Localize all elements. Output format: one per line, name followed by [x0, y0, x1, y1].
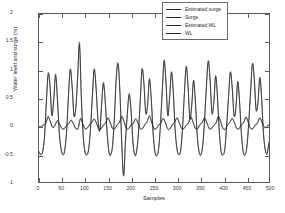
x-tick-label: 0 — [37, 186, 40, 191]
x-tick-mark — [155, 178, 156, 182]
legend-label: Surge — [185, 15, 198, 20]
series-line — [39, 44, 269, 175]
x-tick-mark — [109, 178, 110, 182]
x-tick-label: 50 — [58, 186, 64, 191]
y-tick-mark — [265, 99, 269, 100]
x-tick-mark — [62, 14, 63, 18]
figure-container: -1-0.500.511.52 050100150200250300350400… — [0, 0, 285, 213]
x-tick-mark — [225, 178, 226, 182]
x-tick-label: 300 — [173, 186, 182, 191]
x-tick-mark — [201, 178, 202, 182]
y-tick-mark — [265, 71, 269, 72]
plot-area — [38, 13, 270, 183]
legend-label: Estimated surge — [185, 7, 221, 12]
legend-item[interactable]: Surge — [165, 13, 225, 21]
x-tick-label: 250 — [150, 186, 159, 191]
y-tick-mark — [265, 14, 269, 15]
legend-label: Estimated WL — [185, 23, 216, 28]
y-tick-mark — [265, 42, 269, 43]
y-tick-label: 0 — [10, 123, 13, 128]
y-tick-mark — [39, 42, 43, 43]
y-tick-label: -1 — [8, 180, 13, 185]
y-tick-mark — [39, 127, 43, 128]
plot-lines — [39, 14, 269, 182]
chart-legend: Estimated surgeSurgeEstimated WLWL — [162, 2, 228, 40]
x-tick-label: 150 — [103, 186, 112, 191]
y-tick-label: -0.5 — [4, 152, 13, 157]
legend-label: WL — [185, 31, 193, 36]
x-tick-mark — [132, 178, 133, 182]
x-tick-mark — [85, 178, 86, 182]
x-tick-label: 400 — [219, 186, 228, 191]
legend-item[interactable]: Estimated WL — [165, 21, 225, 29]
x-tick-label: 450 — [242, 186, 251, 191]
x-tick-mark — [248, 14, 249, 18]
x-axis-label: Samples — [38, 196, 270, 202]
y-tick-mark — [265, 127, 269, 128]
x-tick-mark — [132, 14, 133, 18]
x-tick-label: 350 — [196, 186, 205, 191]
x-tick-mark — [109, 14, 110, 18]
y-axis-label: Water level and surge (m) — [13, 0, 19, 119]
legend-line-icon — [165, 30, 182, 36]
x-tick-mark — [62, 178, 63, 182]
x-tick-mark — [155, 14, 156, 18]
x-tick-mark — [248, 178, 249, 182]
x-tick-mark — [39, 178, 40, 182]
x-tick-label: 100 — [80, 186, 89, 191]
legend-line-icon — [165, 14, 182, 20]
y-tick-label: 0.5 — [6, 95, 13, 100]
x-tick-label: 200 — [126, 186, 135, 191]
legend-item[interactable]: Estimated surge — [165, 5, 225, 13]
legend-item[interactable]: WL — [165, 29, 225, 37]
legend-line-icon — [165, 6, 182, 12]
x-tick-mark — [178, 178, 179, 182]
y-tick-mark — [265, 156, 269, 157]
y-tick-mark — [39, 99, 43, 100]
y-tick-mark — [39, 156, 43, 157]
y-tick-mark — [39, 71, 43, 72]
x-tick-mark — [39, 14, 40, 18]
x-tick-mark — [85, 14, 86, 18]
legend-line-icon — [165, 22, 182, 28]
x-tick-label: 500 — [266, 186, 275, 191]
